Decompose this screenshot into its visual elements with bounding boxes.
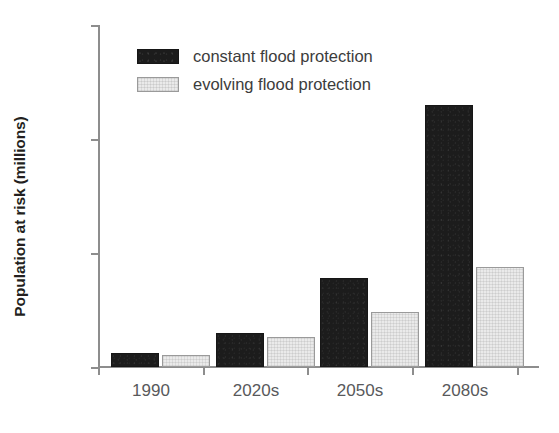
y-tick-mark-100: [91, 253, 98, 255]
x-tick-label-2020s: 2020s: [204, 381, 308, 401]
legend-item-constant: constant flood protection: [137, 42, 373, 70]
bar-constant-2080s: [425, 105, 473, 367]
y-axis-title: Population at risk (millions): [0, 0, 40, 433]
x-tick-mark-1: [203, 367, 205, 375]
bar-evolving-2050s: [371, 312, 419, 367]
bar-constant-1990: [111, 353, 159, 367]
legend-swatch-light-icon: [137, 77, 179, 92]
legend-label-constant: constant flood protection: [193, 47, 373, 66]
bar-evolving-1990: [162, 355, 210, 368]
bar-constant-2050s: [320, 278, 368, 367]
bar-evolving-2080s: [476, 267, 524, 367]
y-tick-mark-0: [91, 367, 98, 369]
x-tick-mark-2: [307, 367, 309, 375]
x-tick-mark-4: [517, 367, 519, 375]
bar-evolving-2020s: [267, 337, 315, 367]
legend-swatch-dark-icon: [137, 49, 179, 64]
x-tick-label-2080s: 2080s: [413, 381, 517, 401]
chart-legend: constant flood protection evolving flood…: [137, 42, 373, 98]
y-tick-mark-200: [91, 139, 98, 141]
x-tick-label-1990: 1990: [99, 381, 203, 401]
legend-item-evolving: evolving flood protection: [137, 70, 373, 98]
y-tick-mark-300: [91, 25, 98, 27]
x-tick-mark-0: [98, 367, 100, 375]
legend-label-evolving: evolving flood protection: [193, 75, 371, 94]
x-tick-label-2050s: 2050s: [308, 381, 412, 401]
bar-constant-2020s: [216, 333, 264, 367]
x-tick-mark-3: [412, 367, 414, 375]
bar-chart-figure: Population at risk (millions) 300 200 10…: [0, 0, 559, 433]
